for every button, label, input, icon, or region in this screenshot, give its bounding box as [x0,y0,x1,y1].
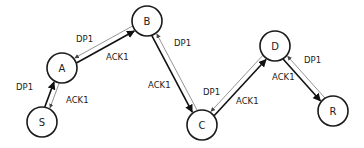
node-s: S [27,107,57,137]
dp-label-s-a: DP1 [16,82,33,92]
node-label-d: D [271,41,279,52]
dp-label-d-r: DP1 [304,55,321,65]
data-packet-arrow-s-to-a [45,82,54,107]
dp-label-c-d: DP1 [203,87,220,97]
node-label-r: R [330,106,337,117]
ack-label-b-a: ACK1 [106,52,129,62]
ack-label-a-s: ACK1 [66,95,89,105]
node-b: B [132,6,162,36]
node-a: A [47,53,77,83]
node-c: C [187,110,217,140]
data-packet-arrow-c-to-d [214,60,266,116]
ack-label-r-d: ACK1 [272,72,295,82]
node-label-a: A [59,63,66,74]
node-label-s: S [39,117,45,128]
ack-label-c-b: ACK1 [148,80,171,90]
node-label-c: C [199,120,206,131]
nodes: SABCDR [27,6,348,140]
ack-arrow-a-to-s [50,83,59,108]
node-label-b: B [144,16,151,27]
routing-diagram: DP1ACK1DP1ACK1DP1ACK1DP1ACK1DP1ACK1 SABC… [0,0,364,148]
node-r: R [318,96,348,126]
dp-label-b-c: DP1 [174,38,191,48]
dp-label-a-b: DP1 [76,34,93,44]
node-d: D [260,31,290,61]
ack-label-d-c: ACK1 [236,96,259,106]
